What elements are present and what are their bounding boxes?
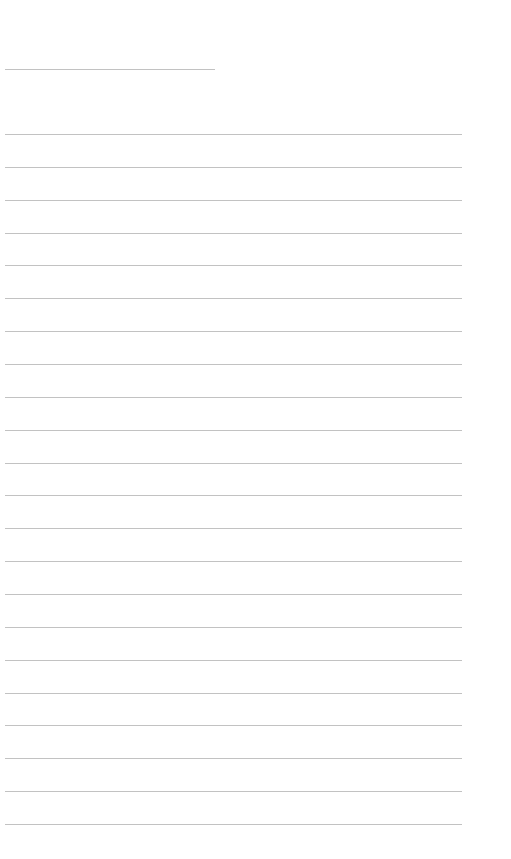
writing-line <box>5 200 462 201</box>
writing-line <box>5 265 462 266</box>
lined-paper-page <box>0 0 511 859</box>
writing-line <box>5 298 462 299</box>
writing-line <box>5 233 462 234</box>
writing-line <box>5 463 462 464</box>
writing-lines <box>0 0 511 859</box>
writing-line <box>5 167 462 168</box>
writing-line <box>5 495 462 496</box>
writing-line <box>5 561 462 562</box>
writing-line <box>5 627 462 628</box>
writing-line <box>5 791 462 792</box>
writing-line <box>5 331 462 332</box>
writing-line <box>5 430 462 431</box>
writing-line <box>5 528 462 529</box>
writing-line <box>5 725 462 726</box>
writing-line <box>5 364 462 365</box>
writing-line <box>5 134 462 135</box>
writing-line <box>5 660 462 661</box>
writing-line <box>5 397 462 398</box>
writing-line <box>5 824 462 825</box>
writing-line <box>5 594 462 595</box>
writing-line <box>5 758 462 759</box>
writing-line <box>5 693 462 694</box>
